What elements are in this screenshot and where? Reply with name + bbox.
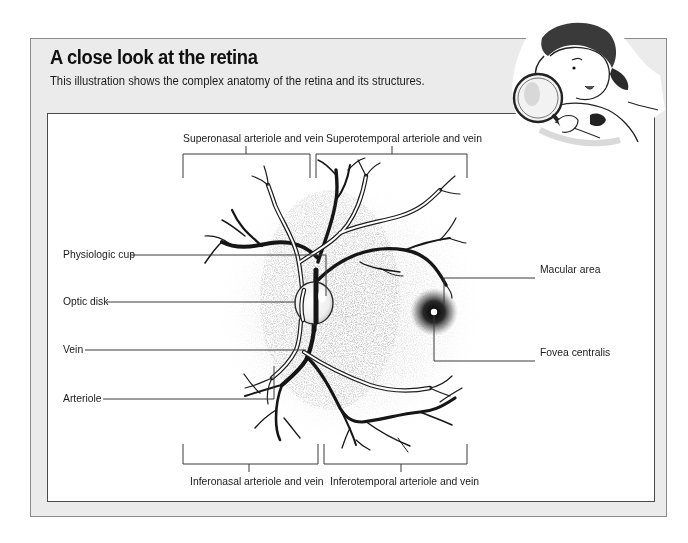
optic-disk-shape: [295, 282, 333, 324]
label-macular-area: Macular area: [540, 263, 600, 275]
magnifying-glass-girl-icon: [500, 10, 670, 160]
label-superonasal: Superonasal arteriole and vein: [183, 132, 323, 144]
label-physiologic-cup: Physiologic cup: [63, 248, 135, 260]
label-vein: Vein: [63, 343, 83, 355]
label-arteriole: Arteriole: [63, 392, 102, 404]
label-inferotemporal: Inferotemporal arteriole and vein: [330, 475, 479, 487]
label-inferonasal: Inferonasal arteriole and vein: [190, 475, 323, 487]
label-fovea-centralis: Fovea centralis: [540, 346, 610, 358]
label-superotemporal: Superotemporal arteriole and vein: [326, 132, 482, 144]
bracket-inferonasal: [183, 444, 318, 464]
label-optic-disk: Optic disk: [63, 295, 108, 307]
fovea: [431, 309, 437, 315]
bracket-superonasal: [183, 154, 310, 178]
